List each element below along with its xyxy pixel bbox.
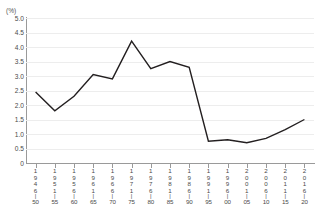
- line-chart: (%) 5.04.54.03.53.02.52.01.51.00.50 1946…: [0, 0, 321, 209]
- x-axis-tick-label: 1961|65: [84, 168, 102, 206]
- y-axis-tick-label: 1.0: [2, 131, 24, 138]
- x-axis-tick-label: 2016|20: [295, 168, 313, 206]
- x-axis-tick-label: 1986|90: [180, 168, 198, 206]
- x-axis-tick-label: 1991|95: [199, 168, 217, 206]
- y-axis-tick-labels: 5.04.54.03.53.02.52.01.51.00.50: [0, 0, 24, 209]
- y-axis-tick-label: 4.5: [2, 29, 24, 36]
- x-axis-tick-label: 1946|50: [27, 168, 45, 206]
- x-axis-tick-label: 1966|70: [103, 168, 121, 206]
- x-axis-tick-label: 1951|55: [46, 168, 64, 206]
- y-axis-tick-label: 1.5: [2, 116, 24, 123]
- series-polyline: [36, 41, 305, 143]
- plot-area: [26, 18, 314, 163]
- y-axis-tick-label: 2.5: [2, 87, 24, 94]
- data-series-line: [26, 18, 314, 163]
- x-axis-tick-label: 2006|10: [257, 168, 275, 206]
- x-axis-tick-label: 2011|15: [276, 168, 294, 206]
- y-axis-tick-label: 0.5: [2, 145, 24, 152]
- x-axis-tick-label: 1971|75: [123, 168, 141, 206]
- x-axis-tick-label: 1976|80: [142, 168, 160, 206]
- y-axis-tick-label: 0: [2, 160, 24, 167]
- y-axis-tick-label: 2.0: [2, 102, 24, 109]
- x-axis-tick-label: 1956|60: [65, 168, 83, 206]
- y-axis-tick-label: 4.0: [2, 44, 24, 51]
- y-axis-tick-label: 3.0: [2, 73, 24, 80]
- y-axis-tick-label: 5.0: [2, 15, 24, 22]
- x-axis-tick-label: 1981|85: [161, 168, 179, 206]
- x-axis-tick-label: 2001|05: [238, 168, 256, 206]
- x-axis-tick-label: 1996|00: [219, 168, 237, 206]
- y-axis-tick-label: 3.5: [2, 58, 24, 65]
- chart-title: [48, 0, 274, 3]
